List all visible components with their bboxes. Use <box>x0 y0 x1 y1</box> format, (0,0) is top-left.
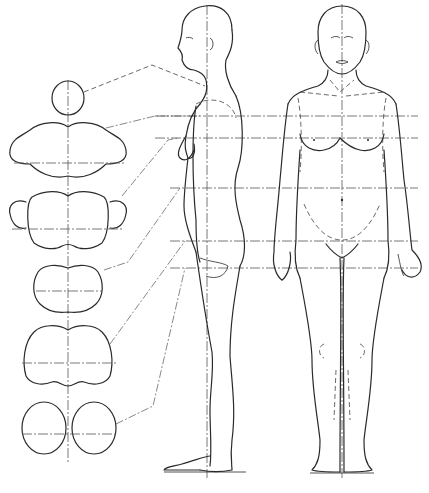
front-view-figure <box>273 4 421 480</box>
cross-sections <box>10 80 127 462</box>
body-proportion-diagram <box>0 0 429 493</box>
leader-lines <box>84 65 205 424</box>
section-thighs <box>22 402 116 454</box>
side-view-figure <box>164 5 246 478</box>
section-upper-thighs <box>22 326 116 386</box>
